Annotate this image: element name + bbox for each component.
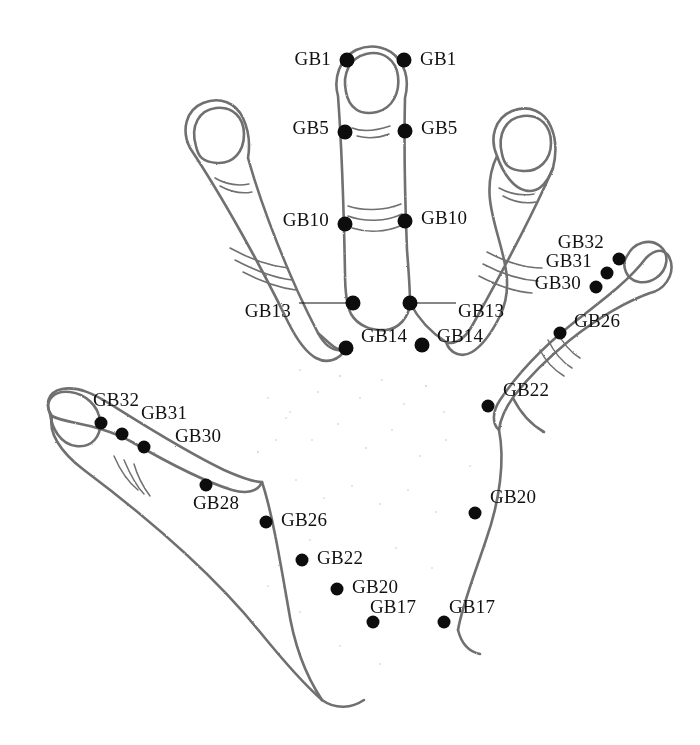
left-thumb-lower-edge: [51, 416, 322, 700]
acupoint-label-gb13-right: GB13: [458, 301, 504, 320]
acupoint-label-gb13-left: GB13: [245, 301, 291, 320]
leader-gb13-right: [410, 303, 456, 304]
hand-wrist-right: [458, 630, 480, 654]
middle-finger-outline: [336, 47, 410, 331]
acupoint-marker-gb20-right[interactable]: [469, 507, 482, 520]
acupoint-label-gb1-right: GB1: [420, 49, 457, 68]
acupoint-marker-gb30-left[interactable]: [138, 441, 151, 454]
acupoint-label-gb28-left: GB28: [193, 493, 239, 512]
acupoint-label-gb17-right: GB17: [449, 597, 495, 616]
hand-outline-illustration: [0, 0, 700, 745]
acupoint-label-gb14-right: GB14: [437, 326, 483, 345]
acupoint-label-gb26-right: GB26: [574, 311, 620, 330]
acupoint-marker-gb31-right[interactable]: [601, 267, 614, 280]
hand-contour-group: [48, 47, 672, 707]
acupoint-marker-gb28-left[interactable]: [200, 479, 213, 492]
acupoint-marker-gb17-left[interactable]: [367, 616, 380, 629]
acupoint-marker-gb30-right[interactable]: [590, 281, 603, 294]
acupoint-label-gb10-right: GB10: [421, 208, 467, 227]
acupoint-marker-gb31-left[interactable]: [116, 428, 129, 441]
right-thumb-outline: [494, 251, 672, 430]
leader-gb13-left: [299, 303, 353, 304]
acupoint-label-gb32-right: GB32: [558, 232, 604, 251]
index-finger-creases: [215, 178, 296, 290]
acupoint-marker-gb17-right[interactable]: [438, 616, 451, 629]
hand-wrist-bottom: [322, 700, 364, 707]
acupoint-marker-gb10-left[interactable]: [338, 217, 353, 232]
acupoint-marker-gb14-left[interactable]: [339, 341, 354, 356]
acupoint-marker-gb10-right[interactable]: [398, 214, 413, 229]
acupoint-label-gb5-left: GB5: [293, 118, 330, 137]
acupoint-marker-gb22-right[interactable]: [482, 400, 495, 413]
acupoint-label-gb14-left: GB14: [361, 326, 407, 345]
acupoint-label-gb22-left: GB22: [317, 548, 363, 567]
acupoint-marker-gb26-right[interactable]: [554, 327, 567, 340]
acupoint-marker-gb20-left[interactable]: [331, 583, 344, 596]
acupoint-marker-gb26-left[interactable]: [260, 516, 273, 529]
ring-fingernail: [501, 116, 551, 171]
index-finger-outline: [186, 100, 345, 361]
acupoint-label-gb17-left: GB17: [370, 597, 416, 616]
acupoint-label-gb10-left: GB10: [283, 210, 329, 229]
acupoint-label-gb22-right: GB22: [503, 380, 549, 399]
acupoint-label-gb31-left: GB31: [141, 403, 187, 422]
acupoint-marker-gb14-right[interactable]: [415, 338, 430, 353]
acupoint-marker-gb1-right[interactable]: [397, 53, 412, 68]
acupoint-marker-gb32-left[interactable]: [95, 417, 108, 430]
acupoint-label-gb1-left: GB1: [295, 49, 332, 68]
middle-finger-creases: [348, 126, 402, 231]
acupoint-label-gb5-right: GB5: [421, 118, 458, 137]
acupoint-label-gb32-left: GB32: [93, 390, 139, 409]
acupoint-label-gb30-left: GB30: [175, 426, 221, 445]
acupoint-label-gb26-left: GB26: [281, 510, 327, 529]
acupoint-marker-gb5-left[interactable]: [338, 125, 353, 140]
index-fingernail: [194, 108, 244, 163]
acupoint-label-gb20-left: GB20: [352, 577, 398, 596]
ring-finger-creases: [479, 188, 542, 293]
acupoint-label-gb20-right: GB20: [490, 487, 536, 506]
acupoint-marker-gb5-right[interactable]: [398, 124, 413, 139]
left-thumb-creases: [114, 456, 150, 496]
acupoint-marker-gb22-left[interactable]: [296, 554, 309, 567]
acupoint-label-gb31-right: GB31: [546, 251, 592, 270]
acupoint-label-gb30-right: GB30: [535, 273, 581, 292]
right-thumb-lower-edge: [513, 398, 544, 432]
acupoint-marker-gb32-right[interactable]: [613, 253, 626, 266]
acupoint-hand-diagram: GB1GB1GB5GB5GB10GB10GB13GB13GB14GB14GB32…: [0, 0, 700, 745]
acupoint-marker-gb1-left[interactable]: [340, 53, 355, 68]
